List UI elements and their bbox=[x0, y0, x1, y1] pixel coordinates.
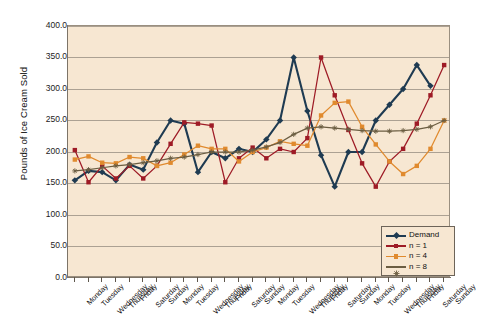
data-point-marker bbox=[237, 159, 241, 163]
data-point-marker bbox=[196, 121, 200, 125]
legend-item: n = 8 bbox=[386, 262, 448, 273]
data-point-marker bbox=[73, 157, 77, 161]
data-point-marker bbox=[333, 93, 337, 97]
data-point-marker bbox=[333, 101, 337, 105]
legend-marker-icon bbox=[394, 254, 399, 259]
legend-item: n = 1 bbox=[386, 241, 448, 252]
data-point-marker bbox=[155, 164, 159, 168]
data-point-marker bbox=[360, 161, 364, 165]
data-point-marker bbox=[290, 54, 296, 60]
data-point-marker bbox=[86, 180, 90, 184]
y-axis-tick-label: 50.0 bbox=[5, 241, 67, 250]
data-point-marker bbox=[414, 127, 419, 132]
data-point-marker bbox=[359, 149, 365, 155]
data-point-marker bbox=[196, 144, 200, 148]
data-point-marker bbox=[223, 180, 227, 184]
series-n1 bbox=[73, 55, 447, 189]
data-point-marker bbox=[401, 147, 405, 151]
data-point-marker bbox=[72, 168, 77, 173]
data-point-marker bbox=[345, 149, 351, 155]
data-point-marker bbox=[401, 172, 405, 176]
data-point-marker bbox=[209, 123, 213, 127]
y-axis-tick-label: 250.0 bbox=[5, 115, 67, 124]
legend-item-label: Demand bbox=[409, 231, 439, 239]
data-point-marker bbox=[319, 113, 323, 117]
data-point-marker bbox=[387, 129, 392, 134]
data-point-marker bbox=[291, 132, 296, 137]
data-point-marker bbox=[305, 136, 309, 140]
data-point-marker bbox=[332, 183, 338, 189]
data-point-marker bbox=[264, 144, 269, 149]
legend-item-label: n = 1 bbox=[409, 242, 427, 250]
data-point-marker bbox=[346, 99, 350, 103]
data-point-marker bbox=[264, 156, 268, 160]
legend-item-label: n = 8 bbox=[409, 263, 427, 271]
data-point-marker bbox=[442, 63, 446, 67]
data-point-marker bbox=[319, 55, 323, 59]
data-point-marker bbox=[374, 184, 378, 188]
data-point-marker bbox=[278, 147, 282, 151]
data-point-marker bbox=[168, 156, 173, 161]
y-axis-line bbox=[67, 25, 68, 277]
data-point-marker bbox=[168, 142, 172, 146]
y-axis-tick-label: 200.0 bbox=[5, 147, 67, 156]
y-axis-tick-label: 400.0 bbox=[5, 21, 67, 30]
y-axis-tick-labels: 0.050.0100.0150.0200.0250.0300.0350.0400… bbox=[0, 0, 67, 302]
data-point-marker bbox=[415, 164, 419, 168]
legend-marker-icon bbox=[392, 232, 399, 239]
legend-marker-icon bbox=[393, 263, 400, 270]
data-point-marker bbox=[113, 163, 118, 168]
data-point-marker bbox=[114, 176, 118, 180]
data-point-marker bbox=[141, 156, 145, 160]
chart-legend: Demandn = 1n = 4n = 8 bbox=[381, 226, 455, 276]
legend-swatch-icon bbox=[386, 251, 406, 261]
legend-item: Demand bbox=[386, 230, 448, 241]
data-point-marker bbox=[195, 152, 200, 157]
plot-area: Demandn = 1n = 4n = 8 bbox=[67, 25, 450, 277]
data-point-marker bbox=[154, 158, 159, 163]
data-point-marker bbox=[168, 161, 172, 165]
legend-marker-icon bbox=[394, 244, 399, 249]
data-point-marker bbox=[318, 124, 323, 129]
data-point-marker bbox=[428, 124, 433, 129]
data-point-marker bbox=[141, 176, 145, 180]
y-axis-tick-label: 350.0 bbox=[5, 52, 67, 61]
data-point-marker bbox=[304, 108, 310, 114]
x-axis-tick-labels: MondayTuesdayWednesdayThursdayFridaySatu… bbox=[0, 282, 473, 335]
y-axis-tick-label: 150.0 bbox=[5, 178, 67, 187]
legend-item-label: n = 4 bbox=[409, 252, 427, 260]
data-point-marker bbox=[86, 154, 90, 158]
data-point-marker bbox=[332, 125, 337, 130]
data-point-marker bbox=[305, 144, 309, 148]
legend-swatch-icon bbox=[386, 241, 406, 251]
data-point-marker bbox=[428, 93, 432, 97]
data-point-marker bbox=[291, 142, 295, 146]
data-point-marker bbox=[127, 155, 131, 159]
y-axis-tick-label: 100.0 bbox=[5, 210, 67, 219]
data-point-marker bbox=[415, 121, 419, 125]
data-point-marker bbox=[401, 128, 406, 133]
data-point-marker bbox=[318, 152, 324, 158]
data-point-marker bbox=[373, 129, 378, 134]
y-axis-tick-label: 300.0 bbox=[5, 84, 67, 93]
legend-swatch-icon bbox=[386, 262, 406, 272]
data-point-marker bbox=[387, 159, 391, 163]
data-point-marker bbox=[374, 142, 378, 146]
data-point-marker bbox=[182, 120, 186, 124]
data-point-marker bbox=[100, 161, 104, 165]
legend-swatch-icon bbox=[386, 230, 406, 240]
data-point-marker bbox=[428, 147, 432, 151]
legend-item: n = 4 bbox=[386, 251, 448, 262]
data-point-marker bbox=[291, 150, 295, 154]
data-point-marker bbox=[250, 148, 255, 153]
data-point-marker bbox=[73, 148, 77, 152]
